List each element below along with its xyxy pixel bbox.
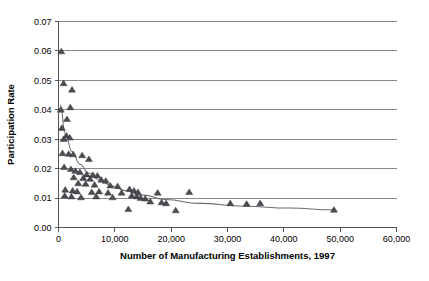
data-point-marker	[96, 188, 103, 194]
data-point-marker	[61, 192, 68, 198]
data-point-marker	[63, 116, 70, 122]
y-axis-title: Participation Rate	[5, 84, 16, 165]
x-tick-label: 60,000	[383, 234, 411, 244]
y-axis-ticks: 0.000.010.020.030.040.050.060.07	[34, 17, 59, 233]
y-tick-label: 0.07	[34, 17, 52, 27]
data-point-marker	[58, 125, 65, 131]
data-point-marker	[88, 189, 95, 195]
data-point-marker	[78, 194, 85, 200]
data-point-marker	[154, 190, 161, 196]
x-axis-title: Number of Manufacturing Establishments, …	[120, 250, 335, 261]
data-point-marker	[91, 182, 98, 188]
x-tick-label: 0	[56, 234, 61, 244]
x-tick-label: 50,000	[326, 234, 354, 244]
data-point-marker	[68, 193, 75, 199]
data-point-marker	[70, 174, 77, 180]
data-points	[57, 48, 337, 213]
y-tick-label: 0.02	[34, 164, 52, 174]
data-point-marker	[85, 156, 92, 162]
data-point-marker	[75, 180, 82, 186]
data-point-marker	[60, 80, 67, 86]
y-tick-label: 0.00	[34, 223, 52, 233]
data-point-marker	[67, 104, 74, 110]
data-point-marker	[79, 152, 86, 158]
data-point-marker	[59, 150, 66, 156]
data-point-marker	[82, 181, 89, 187]
y-tick-label: 0.06	[34, 46, 52, 56]
data-point-marker	[243, 201, 250, 207]
gridlines	[59, 22, 397, 199]
y-tick-label: 0.04	[34, 105, 52, 115]
y-tick-label: 0.03	[34, 135, 52, 145]
data-point-marker	[69, 87, 76, 93]
x-tick-label: 30,000	[214, 234, 242, 244]
axes	[59, 22, 397, 228]
y-tick-label: 0.01	[34, 193, 52, 203]
chart-canvas: 0.000.010.020.030.040.050.060.07010,0002…	[0, 0, 429, 281]
data-point-marker	[105, 190, 112, 196]
x-axis-ticks: 010,00020,00030,00040,00050,00060,000	[56, 228, 410, 245]
data-point-marker	[227, 200, 234, 206]
data-point-marker	[257, 200, 264, 206]
data-point-marker	[62, 187, 69, 193]
scatter-chart: 0.000.010.020.030.040.050.060.07010,0002…	[0, 0, 429, 281]
x-tick-label: 40,000	[270, 234, 298, 244]
x-tick-label: 10,000	[101, 234, 129, 244]
data-point-marker	[61, 164, 68, 170]
y-tick-label: 0.05	[34, 76, 52, 86]
x-tick-label: 20,000	[157, 234, 185, 244]
data-point-marker	[125, 206, 132, 212]
data-point-marker	[172, 207, 179, 213]
data-point-marker	[186, 189, 193, 195]
